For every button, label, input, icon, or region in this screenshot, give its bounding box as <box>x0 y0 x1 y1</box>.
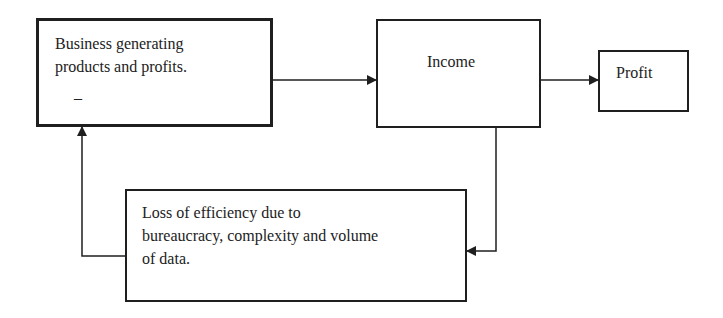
node-income: Income <box>376 19 541 128</box>
node-loss-line3: of data. <box>142 247 190 270</box>
node-profit: Profit <box>598 50 689 112</box>
arrow-loss-to-business <box>82 127 125 256</box>
node-profit-label: Profit <box>616 61 652 84</box>
node-loss-line1: Loss of efficiency due to <box>142 201 301 224</box>
node-business: Business generating products and profits… <box>36 18 273 127</box>
node-loss-line2: bureaucracy, complexity and volume <box>142 224 378 247</box>
node-income-label: Income <box>427 50 475 73</box>
node-business-line2: products and profits. <box>55 55 187 78</box>
node-business-line1: Business generating <box>55 32 183 55</box>
node-business-mark: _ <box>74 81 82 104</box>
arrow-income-to-loss <box>467 127 496 251</box>
node-loss: Loss of efficiency due to bureaucracy, c… <box>125 189 467 302</box>
